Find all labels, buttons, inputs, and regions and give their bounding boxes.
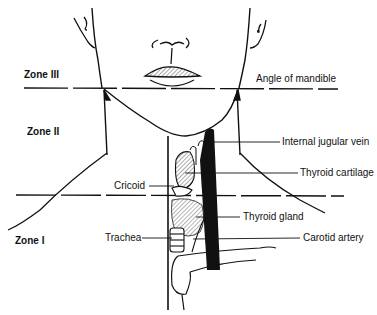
carotid-artery-label: Carotid artery xyxy=(303,233,364,243)
zone-3-boundary-line xyxy=(24,88,338,89)
lips-icon xyxy=(145,67,200,86)
zone-2-label: Zone II xyxy=(27,127,59,137)
zone-3-label: Zone III xyxy=(24,70,59,80)
clavicle-shape xyxy=(172,247,276,310)
trachea-label: Trachea xyxy=(105,233,141,243)
leader-lines xyxy=(142,142,300,239)
mandible-curve xyxy=(104,89,238,136)
zone-1-label: Zone I xyxy=(15,236,44,246)
thyroid-gland-label: Thyroid gland xyxy=(243,212,304,222)
thyroid-cartilage-shape xyxy=(176,152,195,189)
cricoid-shape xyxy=(172,186,192,196)
left-ear-icon xyxy=(74,17,95,48)
angle-of-mandible-label: Angle of mandible xyxy=(256,74,336,84)
internal-jugular-vein-label: Internal jugular vein xyxy=(282,137,369,147)
cricoid-label: Cricoid xyxy=(114,181,145,191)
trachea-shape xyxy=(170,228,184,252)
nose-icon xyxy=(152,38,189,64)
neck-zones-diagram xyxy=(0,0,377,315)
thyroid-cartilage-label: Thyroid cartilage xyxy=(300,168,374,178)
right-ear-icon xyxy=(250,20,266,48)
